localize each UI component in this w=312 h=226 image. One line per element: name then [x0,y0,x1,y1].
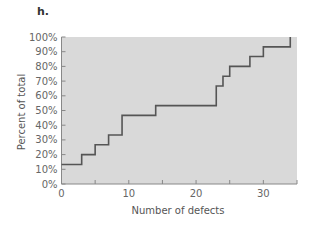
y-tick-label: 0% [42,179,58,190]
step-chart: 0%10%20%30%40%50%60%70%80%90%100% 010203… [0,0,312,226]
y-tick-label: 100% [29,32,58,43]
y-tick-label: 60% [35,90,57,101]
x-tick-label: 30 [257,188,270,199]
y-tick-label: 90% [35,46,57,57]
y-tick-label: 50% [35,105,57,116]
y-tick-label: 20% [35,149,57,160]
y-axis: 0%10%20%30%40%50%60%70%80%90%100% [29,32,66,190]
x-tick-label: 20 [190,188,203,199]
x-axis-title: Number of defects [132,205,225,216]
x-tick-label: 10 [122,188,135,199]
y-tick-label: 70% [35,76,57,87]
x-tick-label: 0 [58,188,64,199]
y-tick-label: 40% [35,120,57,131]
y-axis-title: Percent of total [16,74,27,151]
y-tick-label: 30% [35,134,57,145]
y-tick-label: 10% [35,164,57,175]
y-tick-label: 80% [35,61,57,72]
plot-area [62,37,298,184]
